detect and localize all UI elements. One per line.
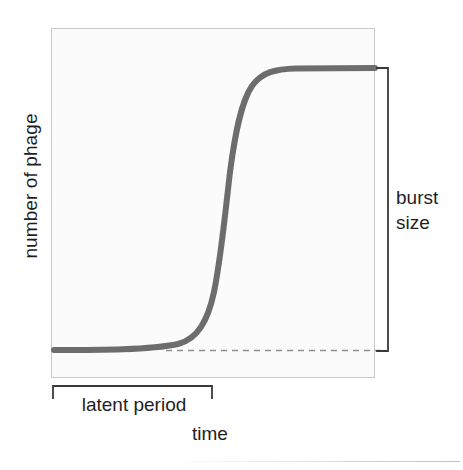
scan-artifact [170,461,460,462]
plot-area [51,28,375,378]
latent-period-label: latent period [36,394,232,416]
burst-size-label-line1: burst [396,187,438,208]
burst-size-bracket [377,68,388,351]
y-axis-label: number of phage [20,71,42,301]
phage-growth-curve-figure: number of phage time latent period burst… [0,0,463,470]
burst-size-label-line2: size [396,210,438,235]
burst-size-label: burst size [396,185,438,235]
x-axis-label: time [0,423,420,445]
